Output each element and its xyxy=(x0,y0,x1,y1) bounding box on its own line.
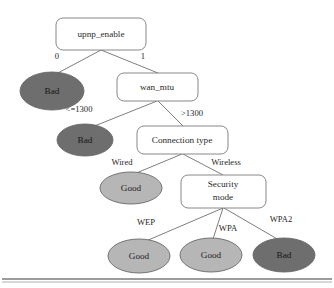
edge-label-wep: WEP xyxy=(137,217,155,227)
leaf-good-wpa[interactable]: Good xyxy=(180,238,242,272)
node-security-mode[interactable]: Security mode xyxy=(181,175,266,208)
leaf-good-wpa-label: Good xyxy=(201,250,222,260)
edge-label-1: 1 xyxy=(141,51,145,61)
edge-upnp-to-wanmtu xyxy=(101,50,158,73)
footer-rule xyxy=(2,279,332,282)
leaf-bad-wpa2-label: Bad xyxy=(277,250,292,260)
leaf-bad-wpa2[interactable]: Bad xyxy=(253,238,315,272)
node-connection-type-label: Connection type xyxy=(152,135,212,145)
node-wan-mtu-label: wan_mtu xyxy=(140,82,175,92)
edge-label-gt-1300: >1300 xyxy=(181,108,203,118)
leaf-good-wep[interactable]: Good xyxy=(108,239,170,273)
leaf-bad-2-label: Bad xyxy=(78,135,93,145)
leaf-bad-2[interactable]: Bad xyxy=(57,124,113,156)
node-connection-type[interactable]: Connection type xyxy=(137,126,228,154)
edge-wanmtu-to-connection xyxy=(158,101,183,126)
leaf-good-wired[interactable]: Good xyxy=(100,172,162,204)
node-wan-mtu[interactable]: wan_mtu xyxy=(117,73,198,101)
leaf-bad-1-label: Bad xyxy=(45,86,60,96)
node-security-mode-label-line1: Security xyxy=(208,179,239,189)
edge-label-0: 0 xyxy=(55,51,59,61)
leaf-bad-1[interactable]: Bad xyxy=(20,72,84,110)
edge-upnp-to-bad1 xyxy=(56,50,101,74)
leaf-good-wired-label: Good xyxy=(121,183,142,193)
edge-wanmtu-to-bad2 xyxy=(92,101,157,127)
node-upnp-enable[interactable]: upnp_enable xyxy=(56,18,146,50)
edge-label-wired: Wired xyxy=(111,157,133,167)
edge-label-wpa: WPA xyxy=(219,223,238,233)
decision-tree-canvas: 0 1 <=1300 >1300 Wired Wireless WEP WPA … xyxy=(0,0,334,288)
edge-security-to-goodwep xyxy=(146,208,223,241)
node-upnp-enable-label: upnp_enable xyxy=(78,29,125,39)
leaf-good-wep-label: Good xyxy=(129,251,150,261)
edge-connection-to-goodwired xyxy=(134,154,182,174)
edge-label-wpa2: WPA2 xyxy=(270,214,293,224)
node-security-mode-label-line2: mode xyxy=(213,192,233,202)
decision-tree-figure: 0 1 <=1300 >1300 Wired Wireless WEP WPA … xyxy=(0,0,334,288)
edge-label-wireless: Wireless xyxy=(211,157,241,167)
